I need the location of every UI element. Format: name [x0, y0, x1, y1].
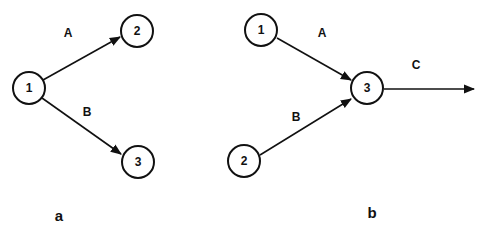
- edge-label-a-B: B: [83, 105, 92, 119]
- edge-a-1-2: [43, 37, 120, 80]
- node-a-2: 2: [121, 15, 153, 47]
- edge-label-b-B: B: [292, 110, 301, 124]
- node-label: 1: [26, 81, 33, 95]
- diagram-canvas: 1 2 3 A B a 1 2 3 A B C: [0, 0, 485, 234]
- node-label: 3: [135, 155, 142, 169]
- edge-b-1-3: [277, 38, 351, 80]
- node-label: 2: [134, 24, 141, 38]
- node-label: 3: [364, 81, 371, 95]
- node-b-1: 1: [245, 14, 277, 46]
- panel-b: 1 2 3 A B C b: [228, 14, 474, 221]
- edge-a-1-3: [42, 98, 121, 154]
- panel-label-b: b: [367, 204, 376, 221]
- panel-a: 1 2 3 A B a: [13, 15, 154, 224]
- panel-label-a: a: [55, 207, 64, 224]
- node-a-3: 3: [122, 146, 154, 178]
- node-b-3: 3: [351, 72, 383, 104]
- node-label: 1: [258, 23, 265, 37]
- node-label: 2: [241, 154, 248, 168]
- node-b-2: 2: [228, 145, 260, 177]
- edge-label-a-A: A: [64, 26, 73, 40]
- edge-label-b-A: A: [318, 26, 327, 40]
- edge-label-b-C: C: [412, 58, 421, 72]
- node-a-1: 1: [13, 72, 45, 104]
- edge-b-2-3: [260, 99, 351, 155]
